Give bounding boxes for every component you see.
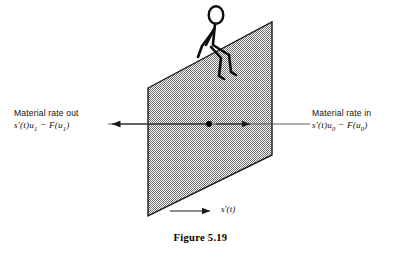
- figure-5-19-container: Material rate out s′(t)u1 − F(u1) Materi…: [0, 0, 401, 256]
- plane-velocity-label: s′(t): [221, 204, 235, 214]
- out-formula-prefix: s′(t)u: [14, 120, 34, 130]
- figure-caption: Figure 5.19: [0, 232, 401, 243]
- person-head: [209, 6, 224, 24]
- in-formula-suffix: ): [364, 120, 367, 130]
- material-plane: [148, 22, 272, 216]
- person-torso: [213, 24, 215, 44]
- material-rate-out-title: Material rate out: [14, 108, 79, 119]
- in-formula-middle: − F(u: [336, 120, 361, 130]
- material-rate-in-label: Material rate in s′(t)u0 − F(u0): [312, 108, 371, 133]
- center-point-marker: [206, 121, 212, 127]
- material-rate-in-title: Material rate in: [312, 108, 371, 119]
- out-formula-middle: − F(u: [38, 120, 63, 130]
- in-formula-prefix: s′(t)u: [312, 120, 332, 130]
- material-rate-out-label: Material rate out s′(t)u1 − F(u1): [14, 108, 79, 133]
- material-rate-out-formula: s′(t)u1 − F(u1): [14, 120, 79, 133]
- material-rate-in-formula: s′(t)u0 − F(u0): [312, 120, 371, 133]
- out-formula-suffix: ): [66, 120, 69, 130]
